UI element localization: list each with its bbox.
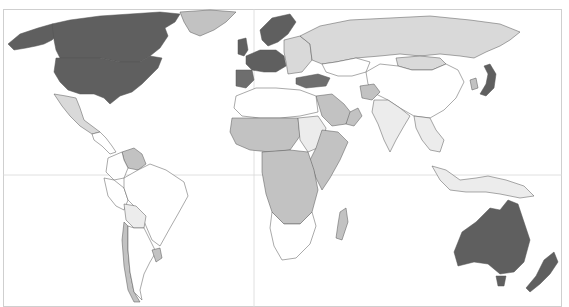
region-uruguay[interactable]: Uruguay bbox=[152, 248, 162, 262]
region-western-europe[interactable]: Western Europe bbox=[246, 50, 286, 72]
region-southeast-asia[interactable]: Southeast Asia bbox=[414, 116, 444, 152]
region-new-zealand[interactable]: New Zealand bbox=[526, 252, 558, 292]
region-japan[interactable]: Japan bbox=[480, 64, 496, 96]
region-madagascar[interactable]: Madagascar bbox=[336, 208, 348, 240]
region-sahel[interactable]: Sahel bbox=[230, 118, 300, 152]
region-north-africa[interactable]: North Africa bbox=[234, 88, 318, 118]
region-central-america[interactable]: Central America bbox=[92, 132, 116, 154]
region-central-africa[interactable]: Central Africa bbox=[262, 150, 318, 224]
region-south-korea[interactable]: South Korea bbox=[470, 78, 478, 90]
region-greenland[interactable]: Greenland bbox=[180, 10, 236, 36]
region-mexico[interactable]: Mexico bbox=[54, 94, 100, 134]
region-tasmania[interactable]: Australia bbox=[496, 276, 506, 286]
region-indonesia[interactable]: Indonesia bbox=[432, 166, 534, 198]
map-svg: United States Canada United States Green… bbox=[0, 0, 569, 307]
region-turkey[interactable]: Oman bbox=[296, 74, 330, 88]
world-choropleth-map: United States Canada United States Green… bbox=[0, 0, 569, 307]
region-united-kingdom[interactable]: United Kingdom bbox=[238, 38, 248, 56]
region-australia[interactable]: Australia bbox=[454, 200, 530, 274]
region-iberia[interactable]: Iberia bbox=[236, 70, 254, 88]
region-canada[interactable]: Canada bbox=[52, 12, 180, 62]
